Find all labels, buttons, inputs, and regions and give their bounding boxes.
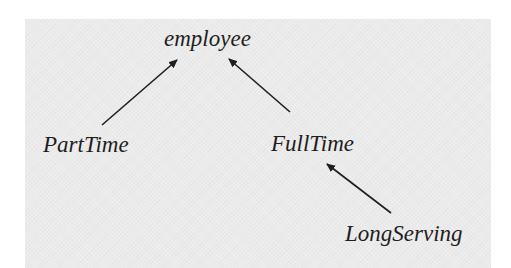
node-fulltime: FullTime	[271, 132, 354, 155]
edge-longserving-to-fulltime	[327, 164, 391, 213]
node-parttime: PartTime	[43, 133, 129, 156]
node-longserving: LongServing	[345, 222, 463, 245]
node-employee: employee	[164, 27, 251, 50]
edge-fulltime-to-employee	[229, 59, 290, 112]
edge-parttime-to-employee	[102, 60, 177, 125]
